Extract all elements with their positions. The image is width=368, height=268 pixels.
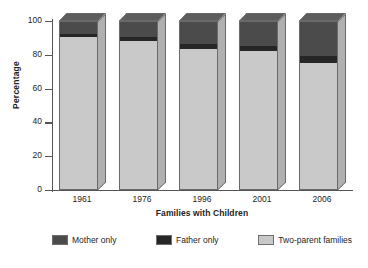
legend-item[interactable]: Father only xyxy=(156,235,219,245)
bar-side-face xyxy=(278,13,286,190)
y-axis-tick xyxy=(45,89,52,90)
x-axis-tick-label: 1976 xyxy=(112,194,172,204)
y-axis-tick-label: 40 xyxy=(2,117,42,126)
y-axis-tick xyxy=(45,55,52,56)
y-axis-tick-label: 80 xyxy=(2,50,42,59)
bar-front-face[interactable] xyxy=(59,21,98,190)
legend-item-label: Mother only xyxy=(72,235,116,245)
legend-swatch-icon xyxy=(258,235,274,245)
bar-segment[interactable] xyxy=(180,22,217,44)
bar-front-face[interactable] xyxy=(119,21,158,190)
y-axis-tick xyxy=(45,190,52,191)
bar-segment[interactable] xyxy=(120,41,157,190)
bar-segment[interactable] xyxy=(60,22,97,34)
bar-segment[interactable] xyxy=(120,22,157,37)
bar-segment[interactable] xyxy=(300,56,337,63)
y-axis-tick xyxy=(45,21,52,22)
bar-column[interactable] xyxy=(299,21,338,190)
legend-swatch-icon xyxy=(52,235,68,245)
x-axis-tick-label: 1996 xyxy=(172,194,232,204)
bar-segment[interactable] xyxy=(60,37,97,190)
bar-column[interactable] xyxy=(239,21,278,190)
y-axis-tick-label: 0 xyxy=(2,185,42,194)
y-axis-tick-label: 60 xyxy=(2,84,42,93)
y-axis-tick-label: 100 xyxy=(2,16,42,25)
bar-side-face xyxy=(338,13,346,190)
x-axis-tick-label: 2001 xyxy=(232,194,292,204)
legend-item-label: Two-parent families xyxy=(278,235,352,245)
y-axis-tick xyxy=(45,156,52,157)
y-axis-tick-label: 20 xyxy=(2,151,42,160)
x-axis-title: Families with Children xyxy=(52,208,352,218)
bar-segment[interactable] xyxy=(300,22,337,56)
bar-column[interactable] xyxy=(119,21,158,190)
bar-side-face xyxy=(158,13,166,190)
legend-item[interactable]: Two-parent families xyxy=(258,235,352,245)
bar-segment[interactable] xyxy=(300,63,337,190)
bar-front-face[interactable] xyxy=(179,21,218,190)
bar-segment[interactable] xyxy=(180,49,217,190)
bar-side-face xyxy=(218,13,226,190)
chart-legend: Mother onlyFather onlyTwo-parent familie… xyxy=(52,235,352,245)
legend-swatch-icon xyxy=(156,235,172,245)
plot-area xyxy=(52,21,352,190)
bar-segment[interactable] xyxy=(240,22,277,46)
legend-item-label: Father only xyxy=(176,235,219,245)
bar-front-face[interactable] xyxy=(299,21,338,190)
x-axis-tick-label: 2006 xyxy=(292,194,352,204)
x-axis-tick-label: 1961 xyxy=(52,194,112,204)
bar-side-face xyxy=(98,13,106,190)
bar-column[interactable] xyxy=(179,21,218,190)
legend-item[interactable]: Mother only xyxy=(52,235,116,245)
bar-front-face[interactable] xyxy=(239,21,278,190)
y-axis-tick xyxy=(45,122,52,123)
bar-column[interactable] xyxy=(59,21,98,190)
stacked-bar-chart: Percentage 100806040200 1961197619962001… xyxy=(0,0,368,268)
bar-segment[interactable] xyxy=(240,51,277,190)
